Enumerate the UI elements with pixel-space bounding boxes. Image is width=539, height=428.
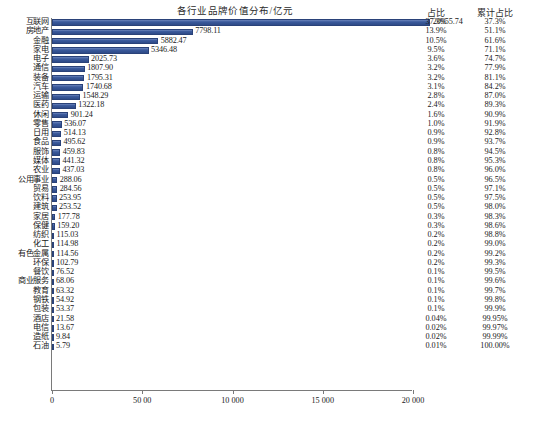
bar[interactable]: [52, 195, 57, 201]
chart-row: 互联网20955.7437.3%37.3%: [0, 18, 539, 27]
chart-row: 房地产7798.1113.9%51.1%: [0, 27, 539, 36]
bar-track: [52, 168, 413, 174]
bar-track: [52, 158, 413, 164]
bar[interactable]: [52, 288, 54, 294]
share-percent-value: 0.01%: [414, 341, 458, 351]
bar-track: [52, 177, 413, 183]
chart-row: 造纸9.840.02%99.99%: [0, 333, 539, 342]
chart-row: 化工114.980.2%99.0%: [0, 240, 539, 249]
bar[interactable]: [52, 205, 57, 211]
x-axis-tick-label: 50 00: [112, 396, 172, 406]
chart-row: 建筑253.520.5%98.0%: [0, 203, 539, 212]
bar-track: [52, 19, 413, 25]
bar-track: [52, 233, 413, 239]
chart-row: 石油5.790.01%100.00%: [0, 342, 539, 351]
chart-row: 电信13.670.02%99.97%: [0, 324, 539, 333]
bar[interactable]: [52, 38, 158, 44]
x-axis-tick: [52, 390, 53, 394]
bar-track: [52, 270, 413, 276]
chart-row: 金融5882.4710.5%61.6%: [0, 37, 539, 46]
chart-row: 钢铁54.920.1%99.8%: [0, 296, 539, 305]
x-axis-tick: [233, 390, 234, 394]
bar[interactable]: [52, 316, 54, 322]
bar-track: [52, 121, 413, 127]
bar[interactable]: [52, 19, 430, 25]
bar-track: [52, 251, 413, 257]
bar-track: [52, 344, 413, 350]
x-axis-tick-label: 20 000: [383, 396, 443, 406]
chart-row: 家居177.780.3%98.3%: [0, 213, 539, 222]
bar[interactable]: [52, 47, 149, 53]
bar[interactable]: [52, 131, 61, 137]
bar[interactable]: [52, 223, 55, 229]
bar-track: [52, 307, 413, 313]
bar-value-label: 5.79: [56, 341, 70, 351]
bar[interactable]: [52, 334, 54, 340]
bar-track: [52, 334, 413, 340]
chart-row: 汽车1740.683.1%84.2%: [0, 83, 539, 92]
plot-area: 互联网20955.7437.3%37.3%房地产7798.1113.9%51.1…: [0, 18, 539, 389]
bar[interactable]: [52, 325, 54, 331]
bar-track: [52, 214, 413, 220]
chart-row: 包装53.370.1%99.9%: [0, 305, 539, 314]
bar[interactable]: [52, 279, 54, 285]
bar[interactable]: [52, 103, 76, 109]
bar[interactable]: [52, 297, 54, 303]
bar[interactable]: [52, 112, 68, 118]
bar[interactable]: [52, 56, 89, 62]
cumulative-percent-value: 100.00%: [462, 341, 528, 351]
x-axis-tick-label: 15 000: [293, 396, 353, 406]
bar-track: [52, 149, 413, 155]
chart-row: 教育63.320.1%99.7%: [0, 287, 539, 296]
bar[interactable]: [52, 260, 54, 266]
bar[interactable]: [52, 344, 54, 350]
bar[interactable]: [52, 84, 83, 90]
bar[interactable]: [52, 29, 193, 35]
chart-row: 纺织115.030.2%98.8%: [0, 231, 539, 240]
chart-row: 有色金属114.560.2%99.2%: [0, 250, 539, 259]
chart-row: 电子2025.733.6%74.7%: [0, 55, 539, 64]
bar[interactable]: [52, 94, 80, 100]
bar-track: [52, 316, 413, 322]
bar[interactable]: [52, 242, 54, 248]
bar-track: [52, 325, 413, 331]
bar-track: [52, 103, 413, 109]
bar-value-label: 7798.11: [195, 26, 221, 36]
bar[interactable]: [52, 168, 60, 174]
chart-row: 通信1807.903.2%77.9%: [0, 64, 539, 73]
bar[interactable]: [52, 251, 54, 257]
bar-track: [52, 195, 413, 201]
bar[interactable]: [52, 121, 62, 127]
chart-row: 家电5346.489.5%71.1%: [0, 46, 539, 55]
bar-value-label: 5346.48: [151, 45, 177, 55]
bar-track: [52, 38, 413, 44]
chart-row: 商业服务68.060.1%99.6%: [0, 277, 539, 286]
x-axis-tick: [323, 390, 324, 394]
category-label: 石油: [0, 341, 49, 351]
bar[interactable]: [52, 75, 84, 81]
x-axis-tick-label: 0: [22, 396, 82, 406]
bar[interactable]: [52, 270, 54, 276]
x-axis-tick-label: 10 000: [203, 396, 263, 406]
bar[interactable]: [52, 66, 85, 72]
bar[interactable]: [52, 149, 60, 155]
bar-track: [52, 288, 413, 294]
bar[interactable]: [52, 307, 54, 313]
chart-title: 各行业品牌价值分布/亿元: [0, 3, 470, 17]
chart-row: 保健159.200.3%98.6%: [0, 222, 539, 231]
bar-track: [52, 186, 413, 192]
bar[interactable]: [52, 233, 54, 239]
bar-track: [52, 29, 413, 35]
brand-value-distribution-chart: 各行业品牌价值分布/亿元 占比 累计占比 互联网20955.7437.3%37.…: [0, 0, 539, 428]
bar-track: [52, 140, 413, 146]
bar-track: [52, 223, 413, 229]
bar[interactable]: [52, 214, 55, 220]
bar[interactable]: [52, 158, 60, 164]
chart-row: 酒店21.580.04%99.95%: [0, 315, 539, 324]
bar-track: [52, 131, 413, 137]
bar[interactable]: [52, 140, 61, 146]
chart-row: 装备1795.313.2%81.1%: [0, 74, 539, 83]
bar[interactable]: [52, 186, 57, 192]
bar-track: [52, 260, 413, 266]
bar[interactable]: [52, 177, 57, 183]
